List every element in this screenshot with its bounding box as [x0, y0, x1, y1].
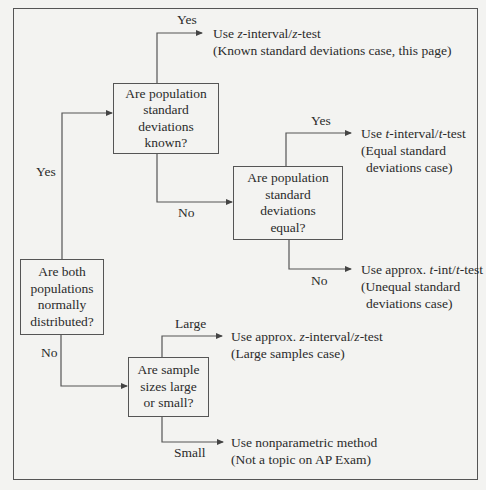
- decision-sd-known: Are population standard deviations known…: [113, 83, 219, 154]
- edge-label-size-large: Large: [175, 316, 206, 332]
- edge-label-normal-yes: Yes: [36, 164, 56, 180]
- outcome-t-equal-note-1: (Equal standard: [361, 142, 466, 159]
- outcome-nonparametric: Use nonparametric method (Not a topic on…: [231, 434, 377, 468]
- outcome-t-unequal: Use approx. t-int/t-test (Unequal standa…: [361, 261, 483, 312]
- edge-known-yes: [157, 33, 202, 83]
- edge-equal-yes: [286, 133, 351, 166]
- decision-sample-size: Are sample sizes large or small?: [128, 357, 209, 417]
- outcome-nonparametric-title: Use nonparametric method: [231, 434, 377, 451]
- edge-label-equal-no: No: [311, 273, 328, 289]
- outcome-z-large-note: (Large samples case): [231, 345, 383, 362]
- edge-label-normal-no: No: [41, 345, 58, 361]
- flowchart-connectors: [0, 0, 486, 490]
- outcome-z-known-title: Use z-interval/z-test: [213, 25, 451, 42]
- edge-known-no: [157, 154, 232, 202]
- decision-sd-known-text: Are population standard deviations known…: [125, 86, 206, 152]
- outcome-nonparametric-note: (Not a topic on AP Exam): [231, 451, 377, 468]
- outcome-z-known-note: (Known standard deviations case, this pa…: [213, 42, 451, 59]
- edge-label-equal-yes: Yes: [311, 113, 331, 129]
- decision-sd-equal: Are population standard deviations equal…: [233, 166, 343, 240]
- edge-size-large: [162, 336, 222, 357]
- decision-sample-size-text: Are sample sizes large or small?: [138, 362, 200, 412]
- edge-normal-no: [61, 335, 127, 386]
- outcome-t-equal-title: Use t-interval/t-test: [361, 125, 466, 142]
- edge-normal-yes: [62, 113, 112, 259]
- decision-normal-text: Are both populations normally distribute…: [30, 264, 94, 330]
- outcome-t-unequal-title: Use approx. t-int/t-test: [361, 261, 483, 278]
- decision-sd-equal-text: Are population standard deviations equal…: [247, 170, 328, 236]
- outcome-z-large: Use approx. z-interval/z-test (Large sam…: [231, 328, 383, 362]
- outcome-z-large-title: Use approx. z-interval/z-test: [231, 328, 383, 345]
- edge-label-known-yes: Yes: [177, 12, 197, 28]
- decision-normal: Are both populations normally distribute…: [20, 259, 104, 335]
- outcome-t-equal: Use t-interval/t-test (Equal standard de…: [361, 125, 466, 176]
- edge-label-known-no: No: [178, 205, 195, 221]
- edge-size-small: [162, 417, 223, 442]
- outcome-t-equal-note-2: deviations case): [361, 159, 466, 176]
- outcome-t-unequal-note-1: (Unequal standard: [361, 278, 483, 295]
- edge-equal-no: [289, 240, 351, 269]
- outcome-z-known: Use z-interval/z-test (Known standard de…: [213, 25, 451, 59]
- outcome-t-unequal-note-2: deviations case): [361, 295, 483, 312]
- edge-label-size-small: Small: [174, 445, 206, 461]
